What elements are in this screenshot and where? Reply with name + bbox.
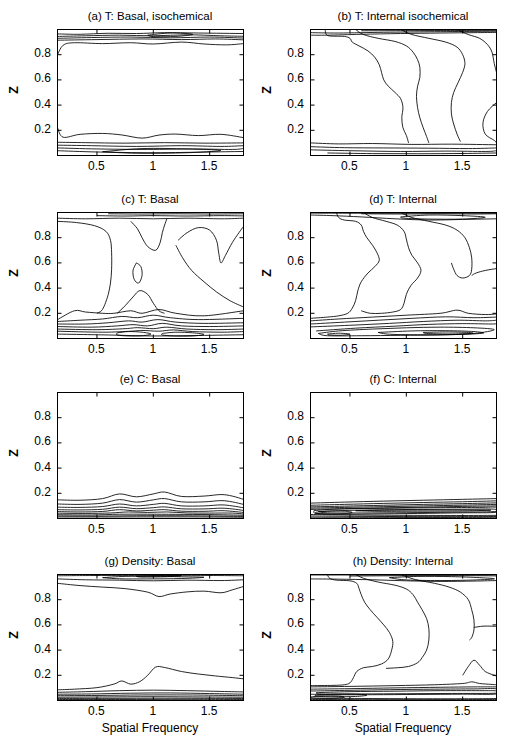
panel-title-a: (a) T: Basal, isochemical [57, 9, 243, 23]
contour-mid-branch [361, 213, 421, 314]
ytick-label: 0.2 [25, 667, 51, 681]
contour-far-right-branch [457, 30, 496, 73]
contour-left-vertical-branch [58, 221, 112, 313]
contour-left-branch [311, 575, 393, 686]
contour-central-closed-lobe [133, 263, 142, 283]
xtick-label: 1 [133, 342, 173, 356]
contour-band-2 [58, 499, 244, 505]
contour-bottom-band-2 [311, 147, 497, 149]
xtick-label: 1.5 [189, 522, 229, 536]
panel-f: (f) C: Internal0.20.40.60.8Z0.511.5 [258, 372, 504, 556]
xtick-label: 1.5 [189, 704, 229, 718]
axes-frame [58, 393, 244, 519]
contour-bot-band-1 [58, 310, 244, 320]
xtick-label: 1 [386, 342, 426, 356]
y-axis-label: Z [260, 264, 274, 282]
contour-band-7 [58, 514, 244, 515]
y-axis-label: Z [260, 444, 274, 462]
contour-bottom-band-4 [327, 153, 496, 154]
panel-e: (e) C: Basal0.20.40.60.8Z0.511.5 [5, 372, 251, 556]
ytick-label: 0.2 [278, 305, 304, 319]
y-axis-label: Z [260, 626, 274, 644]
contour-bot-band-1 [311, 682, 497, 687]
ytick-label: 0.6 [25, 434, 51, 448]
ytick-label: 0.8 [25, 409, 51, 423]
contour-right-branch-upper [178, 226, 243, 263]
contour-band-lower-2 [58, 690, 244, 692]
ytick-label: 0.2 [278, 485, 304, 499]
ytick-label: 0.8 [278, 46, 304, 60]
y-axis-label: Z [260, 81, 274, 99]
xtick-label: 0.5 [329, 159, 369, 173]
ytick-label: 0.4 [25, 97, 51, 111]
plot-area-e [57, 392, 244, 519]
contour-left-branch [311, 213, 380, 319]
contour-right-branch [401, 213, 472, 279]
xtick-label: 1 [386, 704, 426, 718]
contour-band-bottom-2 [311, 516, 497, 517]
panel-a: (a) T: Basal, isochemical0.20.40.60.8Z0.… [5, 9, 251, 193]
panel-c: (c) T: Basal0.20.40.60.8Z0.511.5 [5, 192, 251, 376]
ytick-label: 0.2 [25, 485, 51, 499]
contour-upper-band-4 [58, 39, 244, 40]
y-axis-label: Z [7, 264, 21, 282]
contour-lower-band-1 [58, 142, 244, 143]
ytick-label: 0.4 [25, 642, 51, 656]
contour-right-edge-lobe [483, 103, 497, 143]
ytick-label: 0.4 [278, 642, 304, 656]
axes-frame [311, 575, 497, 701]
plot-area-b [310, 29, 497, 156]
plot-area-d [310, 212, 497, 339]
contour-mid-branch [356, 30, 429, 143]
panel-title-d: (d) T: Internal [310, 192, 496, 206]
contour-right-spike [463, 660, 497, 676]
axes-frame [311, 213, 497, 339]
contour-upper-band-1 [58, 33, 244, 35]
contour-right-branch [401, 30, 465, 142]
y-axis-label: Z [7, 81, 21, 99]
contour-group [311, 213, 497, 336]
contour-right-branch-2 [472, 269, 497, 276]
xtick-label: 1.5 [189, 342, 229, 356]
ytick-label: 0.2 [278, 122, 304, 136]
plot-area-f [310, 392, 497, 519]
ytick-label: 0.6 [25, 616, 51, 630]
ytick-label: 0.2 [25, 305, 51, 319]
contour-main-upper-envelope [58, 42, 244, 55]
xtick-label: 0.5 [329, 522, 369, 536]
contour-top-band-1 [58, 218, 244, 219]
ytick-label: 0.6 [25, 254, 51, 268]
ytick-label: 0.4 [278, 460, 304, 474]
contour-right-branch-tail [474, 626, 497, 627]
contour-group [58, 492, 244, 517]
contour-top-lobe-1 [401, 215, 486, 219]
y-axis-label: Z [7, 444, 21, 462]
contour-bot-band-6 [58, 330, 244, 332]
panel-title-b: (b) T: Internal isochemical [310, 9, 496, 23]
panel-title-c: (c) T: Basal [57, 192, 243, 206]
contour-right-branch [401, 575, 475, 641]
plot-area-g [57, 574, 244, 701]
tick-marks [311, 213, 497, 339]
panel-title-f: (f) C: Internal [310, 372, 496, 386]
contour-mid-branch [356, 575, 430, 669]
x-axis-label: Spatial Frequency [57, 721, 243, 735]
contour-group [311, 575, 498, 700]
contour-bottom-band-3 [311, 150, 497, 152]
contour-bot-small-lobe [327, 333, 350, 335]
xtick-label: 1.5 [442, 522, 482, 536]
contour-left-branch [325, 30, 408, 143]
xtick-label: 1.5 [189, 159, 229, 173]
xtick-label: 1.5 [442, 342, 482, 356]
xtick-label: 0.5 [329, 704, 369, 718]
panel-b: (b) T: Internal isochemical0.20.40.60.8Z… [258, 9, 504, 193]
plot-area-a [57, 29, 244, 156]
xtick-label: 1 [386, 159, 426, 173]
ytick-label: 0.8 [278, 591, 304, 605]
ytick-label: 0.6 [25, 71, 51, 85]
panel-title-e: (e) C: Basal [57, 372, 243, 386]
x-axis-label: Spatial Frequency [310, 721, 496, 735]
contour-band-lower-3 [58, 693, 244, 694]
tick-marks [58, 393, 244, 519]
contour-band-top [311, 499, 497, 504]
